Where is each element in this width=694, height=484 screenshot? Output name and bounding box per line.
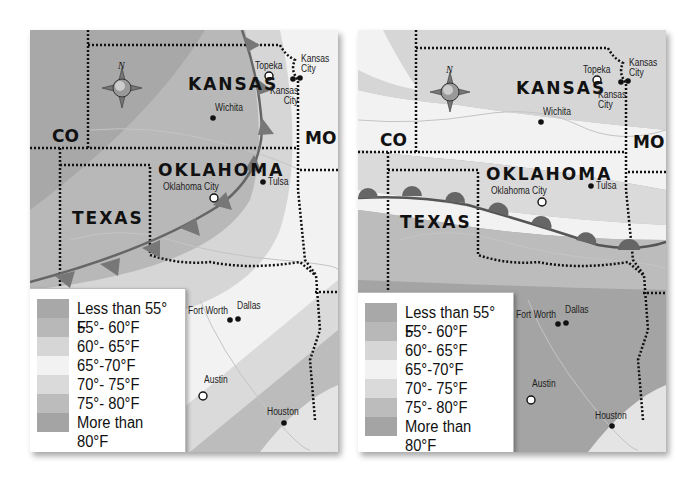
state-label-kansas: KANSAS: [516, 78, 606, 98]
legend-item: 60°- 65°F: [37, 337, 182, 356]
legend-label: More than 80°F: [77, 413, 174, 451]
legend-item: More than 80°F: [37, 413, 182, 432]
legend-label: 75°- 80°F: [77, 394, 140, 413]
city-label-austin: Austin: [204, 374, 228, 385]
legend-label: More than 80°F: [405, 417, 502, 452]
legend-swatch: [37, 394, 69, 413]
legend-item: 65°-70°F: [365, 360, 510, 379]
legend-label: 70°- 75°F: [405, 379, 468, 398]
city-label-houston: Houston: [267, 406, 299, 417]
legend-item: 60°- 65°F: [365, 341, 510, 360]
legend-item: More than 80°F: [365, 417, 510, 436]
legend-swatch: [365, 398, 397, 417]
state-label-mo: MO: [633, 132, 664, 152]
city-label-austin: Austin: [532, 378, 556, 389]
legend-swatch: [37, 337, 69, 356]
legend-item: 70°- 75°F: [365, 379, 510, 398]
legend-label: 60°- 65°F: [77, 337, 140, 356]
legend-label: 55°- 60°F: [77, 318, 140, 337]
city-label-houston: Houston: [595, 410, 627, 421]
state-label-oklahoma: OKLAHOMA: [158, 160, 284, 180]
state-label-oklahoma: OKLAHOMA: [486, 164, 612, 184]
compass-north-label: N: [446, 64, 453, 75]
city-label-wichita: Wichita: [215, 102, 243, 113]
legend-swatch: [365, 360, 397, 379]
legend-label: 65°-70°F: [405, 360, 463, 379]
legend-swatch: [365, 379, 397, 398]
compass-north-label: N: [118, 60, 125, 71]
legend-item: 75°- 80°F: [365, 398, 510, 417]
temperature-legend: Less than 55° F 55°- 60°F 60°- 65°F 65°-…: [30, 288, 186, 452]
legend-label: 65°-70°F: [77, 356, 135, 375]
legend-label: 60°- 65°F: [405, 341, 468, 360]
legend-item: 55°- 60°F: [37, 318, 182, 337]
city-label-fort-worth: Fort Worth: [516, 309, 556, 320]
state-label-co: CO: [380, 130, 407, 150]
legend-item: 65°-70°F: [37, 356, 182, 375]
legend-item: Less than 55° F: [365, 303, 510, 322]
state-label-kansas: KANSAS: [188, 74, 278, 94]
legend-item: 70°- 75°F: [37, 375, 182, 394]
state-label-co: CO: [52, 126, 79, 146]
legend-item: Less than 55° F: [37, 299, 182, 318]
state-label-mo: MO: [305, 128, 336, 148]
state-label-texas: TEXAS: [400, 212, 472, 232]
legend-swatch: [365, 303, 397, 322]
legend-item: 55°- 60°F: [365, 322, 510, 341]
city-label-oklahoma-city: Oklahoma City: [163, 181, 219, 192]
city-label-topeka: Topeka: [255, 60, 282, 71]
city-label-dallas: Dallas: [565, 304, 589, 315]
cold-front-map: KANSAS OKLAHOMA TEXAS CO MO N Topeka Kan…: [30, 30, 338, 452]
legend-label: 75°- 80°F: [405, 398, 468, 417]
temperature-legend: Less than 55° F 55°- 60°F 60°- 65°F 65°-…: [358, 292, 514, 452]
legend-label: 55°- 60°F: [405, 322, 468, 341]
legend-swatch: [365, 322, 397, 341]
city-label-kansas-city-ks: Kansas City: [270, 86, 298, 106]
warm-front-map: KANSAS OKLAHOMA TEXAS CO MO N Topeka Kan…: [358, 30, 666, 452]
legend-item: 75°- 80°F: [37, 394, 182, 413]
legend-label: 70°- 75°F: [77, 375, 140, 394]
city-label-wichita: Wichita: [543, 106, 571, 117]
legend-swatch: [37, 318, 69, 337]
city-label-oklahoma-city: Oklahoma City: [491, 185, 547, 196]
city-label-kansas-city-mo: Kansas City: [629, 58, 657, 78]
city-label-fort-worth: Fort Worth: [188, 305, 228, 316]
legend-swatch: [365, 417, 397, 436]
legend-swatch: [37, 299, 69, 318]
city-label-tulsa: Tulsa: [596, 180, 616, 191]
city-label-tulsa: Tulsa: [268, 176, 288, 187]
city-label-topeka: Topeka: [583, 64, 610, 75]
legend-swatch: [37, 375, 69, 394]
city-label-dallas: Dallas: [237, 300, 261, 311]
state-label-texas: TEXAS: [72, 208, 144, 228]
city-label-kansas-city-ks: Kansas City: [598, 90, 626, 110]
legend-swatch: [37, 413, 69, 432]
legend-swatch: [365, 341, 397, 360]
legend-swatch: [37, 356, 69, 375]
city-label-kansas-city-mo: Kansas City: [301, 54, 329, 74]
